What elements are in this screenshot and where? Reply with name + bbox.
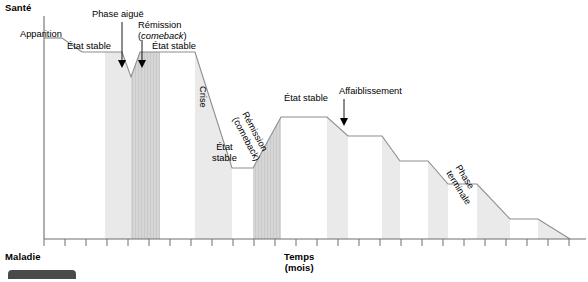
annotation-etat-stable-2: État stable [152, 41, 196, 52]
arrowhead-affaiblissement [340, 118, 348, 126]
annotation-affaiblissement: Affaiblissement [339, 86, 402, 97]
band-affaiblissement-1 [327, 117, 348, 239]
band-affaiblissement-2 [382, 136, 400, 239]
band-phase-aigue [105, 52, 122, 239]
annotation-remission-1: Rémission (comeback) [138, 20, 187, 41]
annotation-etat-stable-3-line2: stable [212, 153, 237, 164]
annotation-remission-1-italic: comeback [141, 31, 183, 41]
shaded-bands [105, 52, 570, 239]
y-axis-bottom-label: Maladie [5, 251, 41, 262]
x-axis-label-unit: (mois) [284, 262, 314, 273]
health-trajectory-figure: Santé Maladie Temps (mois) Apparition Ét… [0, 0, 588, 282]
band-remission-1 [131, 52, 160, 239]
annotation-etat-stable-3: État stable [212, 142, 237, 163]
band-phase-aigue-drop [122, 52, 131, 239]
band-phase-terminale [477, 184, 510, 239]
annotation-etat-stable-4: État stable [284, 93, 328, 104]
annotation-etat-stable-3-line1: État [212, 142, 237, 153]
x-axis-ticks [44, 239, 569, 246]
annotation-crise: Crise [198, 86, 209, 108]
annotation-remission-1-line1: Rémission [138, 20, 187, 31]
annotation-apparition: Apparition [20, 29, 62, 40]
x-axis-label-text: Temps [284, 251, 314, 262]
annotation-leaders [45, 22, 344, 120]
annotation-etat-stable-1: État stable [67, 41, 111, 52]
annotation-phase-aigue: Phase aiguë [92, 9, 144, 20]
x-axis-label: Temps (mois) [284, 251, 314, 273]
y-axis-top-label: Santé [5, 2, 31, 13]
bottom-toolbar-bar[interactable] [8, 270, 76, 279]
annotation-remission-1-line2: (comeback) [138, 31, 187, 42]
